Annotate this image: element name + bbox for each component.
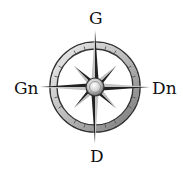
compass-rose-figure: G Gn Dn D: [0, 0, 183, 171]
label-south: D: [90, 148, 104, 165]
label-west: Gn: [14, 80, 39, 97]
label-north: G: [89, 10, 103, 27]
label-east: Dn: [152, 80, 177, 97]
compass-hub: [86, 78, 104, 96]
